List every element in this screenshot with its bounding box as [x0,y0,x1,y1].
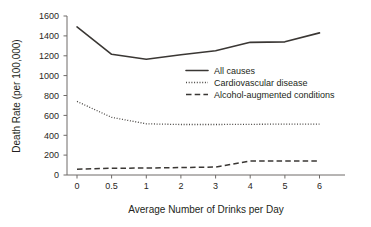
y-tick-label-800: 800 [44,91,59,101]
chart-canvas: 0 200 400 600 800 1000 1200 1400 1600 0 [0,0,371,227]
x-tick-label-4: 4 [248,181,253,191]
y-tick-label-200: 200 [44,150,59,160]
y-axis-title: Death Rate (per 100,000) [11,39,22,152]
legend-label-all-causes: All causes [214,66,256,76]
x-tick-label-0.5: 0.5 [105,181,118,191]
y-tick-label-600: 600 [44,111,59,121]
y-tick-label-400: 400 [44,131,59,141]
series-cardiovascular-disease [77,101,320,124]
legend: All causes Cardiovascular disease Alcoho… [186,66,335,100]
y-tick-label-0: 0 [54,170,59,180]
x-tick-label-1: 1 [144,181,149,191]
series-all-causes [77,27,320,59]
x-axis-group: 0 0.5 1 2 3 4 5 6 [67,175,345,191]
x-tick-label-3: 3 [213,181,218,191]
x-tick-label-0: 0 [74,181,79,191]
y-tick-label-1200: 1200 [39,51,59,61]
y-tick-label-1600: 1600 [39,11,59,21]
chart-figure: 0 200 400 600 800 1000 1200 1400 1600 0 [0,0,371,227]
y-tick-label-1400: 1400 [39,31,59,41]
x-axis-ticks [77,175,320,179]
x-axis-title: Average Number of Drinks per Day [128,204,283,215]
x-tick-label-6: 6 [317,181,322,191]
y-tick-label-1000: 1000 [39,71,59,81]
legend-label-alcohol-augmented-conditions: Alcohol-augmented conditions [214,90,335,100]
y-axis-ticks [64,16,68,175]
series-alcohol-augmented-conditions [77,161,320,169]
x-tick-label-5: 5 [282,181,287,191]
legend-label-cardiovascular-disease: Cardiovascular disease [214,78,308,88]
x-tick-label-2: 2 [178,181,183,191]
y-axis-group: 0 200 400 600 800 1000 1200 1400 1600 [39,11,67,180]
